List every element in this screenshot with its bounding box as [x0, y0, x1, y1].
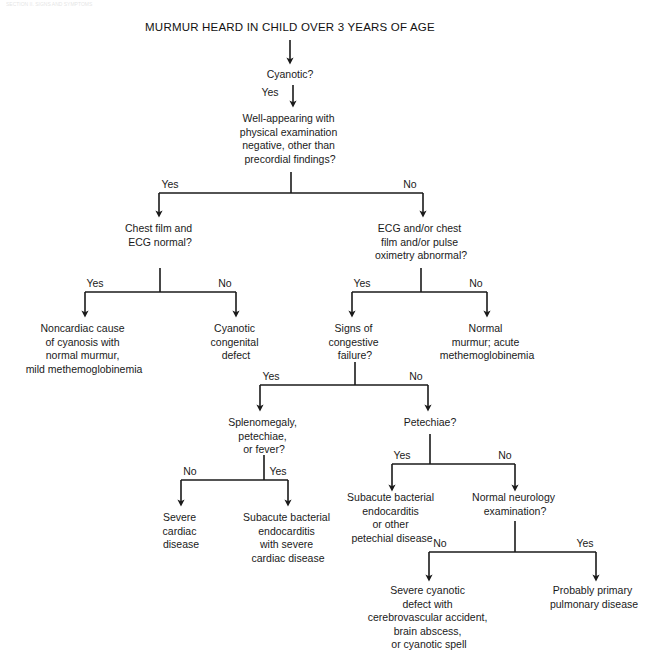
- edge-label-ecg-no: No: [469, 277, 483, 289]
- edge-label-cyanotic-yes: Yes: [261, 86, 278, 98]
- edge-label-well-no: No: [403, 178, 417, 190]
- edge-label-spleen-no: No: [183, 465, 197, 477]
- node-petechiae: Petechiae?: [404, 416, 457, 428]
- node-sbe-severe-cardiac: Subacute bacterial endocarditis with sev…: [243, 511, 333, 564]
- edge-label-well-yes: Yes: [161, 178, 178, 190]
- node-sbe-petechial: Subacute bacterial endocarditis or other…: [347, 491, 437, 544]
- node-signs-congestive: Signs of congestive failure?: [328, 322, 381, 361]
- flowchart-page: SECTION II. SIGNS AND SYMPTOMS MURMUR HE…: [0, 0, 662, 669]
- edge-label-neuro-yes: Yes: [576, 537, 593, 549]
- node-severe-cyanotic-defect: Severe cyanotic defect with cerebrovascu…: [368, 584, 491, 650]
- node-normal-murmur-acute: Normal murmur; acute methemoglobinemia: [440, 322, 535, 361]
- edge-label-chest-yes: Yes: [86, 277, 103, 289]
- node-probably-primary-pulmonary: Probably primary pulmonary disease: [550, 584, 638, 610]
- node-ecg-chest-pulse: ECG and/or chest film and/or pulse oxime…: [375, 222, 467, 261]
- edge-label-congestive-no: No: [409, 370, 423, 382]
- node-noncardiac-cause: Noncardiac cause of cyanosis with normal…: [26, 322, 143, 375]
- node-chest-film-ecg: Chest film and ECG normal?: [125, 222, 195, 248]
- node-severe-cardiac: Severe cardiac disease: [163, 511, 200, 550]
- node-cyanotic-congenital: Cyanotic congenital defect: [211, 322, 262, 361]
- edge-label-chest-no: No: [218, 277, 232, 289]
- edge-label-neuro-no: No: [433, 537, 447, 549]
- edge-label-spleen-yes: Yes: [269, 465, 286, 477]
- flowchart-canvas: MURMUR HEARD IN CHILD OVER 3 YEARS OF AG…: [0, 0, 662, 669]
- node-well-appearing: Well-appearing with physical examination…: [240, 112, 340, 165]
- chart-title: MURMUR HEARD IN CHILD OVER 3 YEARS OF AG…: [145, 21, 435, 33]
- node-normal-neurology: Normal neurology examination?: [472, 491, 558, 517]
- node-cyanotic: Cyanotic?: [267, 68, 314, 80]
- edge-label-petechiae-yes: Yes: [393, 449, 410, 461]
- edge-label-congestive-yes: Yes: [262, 370, 279, 382]
- node-splenomegaly: Splenomegaly, petechiae, or fever?: [228, 416, 300, 455]
- edge-label-ecg-yes: Yes: [353, 277, 370, 289]
- edge-label-petechiae-no: No: [498, 449, 512, 461]
